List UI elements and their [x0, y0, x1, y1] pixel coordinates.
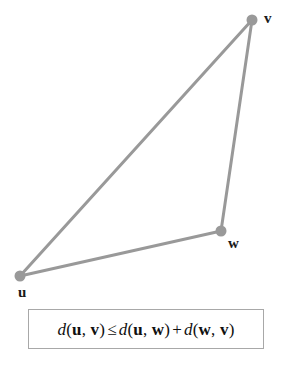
formula-v1: v: [91, 320, 100, 339]
formula-d1: d: [57, 320, 66, 339]
vertex-label-w: w: [228, 236, 239, 251]
formula-comma1: ,: [82, 320, 91, 339]
triangle-diagram: [0, 0, 289, 310]
formula-u1: u: [72, 320, 82, 339]
formula-text: d(u, v)≤d(u, w)+d(w, v): [57, 321, 234, 338]
edge-u-w: [20, 231, 221, 276]
formula-u2: u: [133, 320, 143, 339]
edge-u-v: [20, 20, 252, 276]
edge-w-v: [221, 20, 252, 231]
formula-w2: w: [199, 320, 211, 339]
formula-close3: ): [229, 320, 235, 339]
formula-d3: d: [184, 320, 193, 339]
formula-plus-operator: +: [170, 320, 184, 339]
vertex-v-dot: [247, 15, 258, 26]
vertex-label-v: v: [264, 11, 272, 26]
figure-root: v w u d(u, v)≤d(u, w)+d(w, v): [0, 0, 289, 370]
formula-w1: w: [152, 320, 164, 339]
formula-v2: v: [220, 320, 229, 339]
vertex-label-u: u: [18, 285, 26, 300]
triangle-edges: [20, 20, 252, 276]
formula-leq-operator: ≤: [105, 320, 119, 339]
vertex-u-dot: [15, 271, 26, 282]
formula-box: d(u, v)≤d(u, w)+d(w, v): [28, 309, 264, 349]
formula-comma2: ,: [143, 320, 152, 339]
vertex-w-dot: [216, 226, 227, 237]
formula-comma3: ,: [211, 320, 220, 339]
